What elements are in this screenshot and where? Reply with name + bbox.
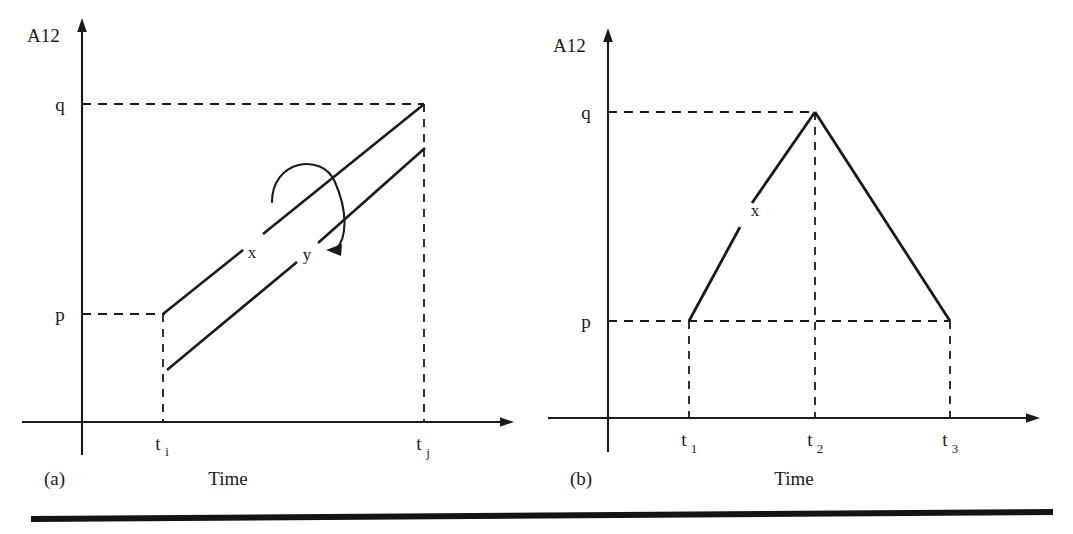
panel-a-level-p: p [55, 304, 65, 325]
figure-root: A12 q p x y t i t j (a) Time [0, 0, 1073, 534]
panel-a-tick-ti-base: t [155, 433, 161, 454]
panel-b-tick-t1-base: t [681, 429, 687, 450]
panel-b-series-x [689, 112, 950, 321]
panel-b-series-label-x: x [751, 201, 760, 220]
curved-swap-arrow-icon [272, 164, 345, 256]
panel-b-level-p: p [581, 311, 591, 332]
panel-a-series-x [163, 105, 423, 314]
panel-a-tick-tj-sub: j [425, 445, 430, 460]
panel-a-tick-tj-base: t [416, 433, 422, 454]
panel-a: A12 q p x y t i t j (a) Time [22, 18, 514, 490]
panel-a-tick-tj: t j [416, 433, 429, 460]
panel-b-x-axis-caption: Time [774, 468, 813, 489]
panel-b-y-axis-label: A12 [553, 35, 586, 56]
figure-canvas: A12 q p x y t i t j (a) Time [0, 0, 1073, 534]
panel-a-series-label-x: x [248, 243, 257, 262]
panel-b-y-axis [603, 28, 613, 452]
panel-a-tick-ti-sub: i [165, 444, 169, 459]
panel-b-tick-t3: t 3 [942, 429, 958, 456]
panel-a-y-axis [77, 18, 87, 455]
bottom-rule [31, 512, 1053, 519]
panel-b-tick-t2: t 2 [807, 429, 823, 456]
panel-b-tick-t1-sub: 1 [691, 441, 698, 456]
panel-a-y-axis-label: A12 [27, 25, 60, 46]
panel-a-tick-ti: t i [155, 433, 169, 459]
panel-b-tick-t2-base: t [807, 429, 813, 450]
panel-b-x-axis [548, 413, 1040, 423]
panel-a-label: (a) [44, 468, 65, 490]
panel-a-level-q: q [55, 94, 65, 115]
panel-b-tick-t3-base: t [942, 429, 948, 450]
panel-b-tick-t1: t 1 [681, 429, 697, 456]
panel-b-level-q: q [581, 102, 591, 123]
panel-b-tick-t2-sub: 2 [817, 441, 824, 456]
x-axis-arrowhead-icon [500, 417, 514, 427]
panel-a-x-axis-caption: Time [208, 468, 247, 489]
y-axis-arrowhead-icon [603, 28, 613, 42]
panel-a-series-y [167, 148, 425, 370]
panel-b-label: (b) [570, 468, 592, 490]
y-axis-arrowhead-icon [77, 18, 87, 32]
panel-b: A12 q p x t 1 t 2 t 3 (b) Time [548, 28, 1040, 490]
panel-a-x-axis [22, 417, 514, 427]
x-axis-arrowhead-icon [1026, 413, 1040, 423]
panel-a-series-label-y: y [303, 245, 312, 264]
panel-b-tick-t3-sub: 3 [952, 441, 959, 456]
